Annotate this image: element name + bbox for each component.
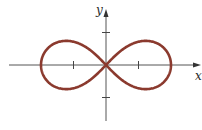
x-axis-arrow-icon [193,63,201,68]
lemniscate-figure: y x [0,0,202,130]
x-axis-label: x [195,70,202,82]
plot-canvas [0,0,202,130]
y-axis-label: y [96,4,103,16]
y-axis-arrow-icon [104,9,109,17]
